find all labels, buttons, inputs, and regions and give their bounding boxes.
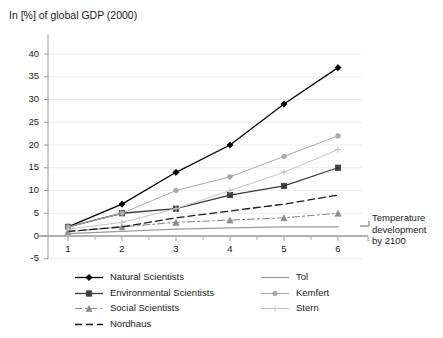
x-axis-caption-line-3: by 2100 xyxy=(372,235,426,247)
y-tick-label: 15 xyxy=(13,162,39,172)
data-point xyxy=(281,169,287,175)
legend-item[interactable]: Social Scientists xyxy=(74,300,254,316)
x-axis-caption-line-1: Temperature xyxy=(372,212,426,224)
y-tick-label: 5 xyxy=(13,208,39,218)
legend-item[interactable]: Kemfert xyxy=(260,285,400,301)
data-point xyxy=(173,169,179,175)
y-tick-label: 30 xyxy=(13,94,39,104)
legend-item-label: Social Scientists xyxy=(110,302,179,313)
legend-marker xyxy=(86,291,91,296)
legend-item-label: Nordhaus xyxy=(110,318,151,329)
caption-bracket-mark xyxy=(360,221,369,226)
chart-legend: Natural ScientistsEnvironmental Scientis… xyxy=(74,269,404,331)
legend-item[interactable]: Natural Scientists xyxy=(74,269,254,285)
legend-item-label: Tol xyxy=(296,271,308,282)
y-tick-label: 40 xyxy=(13,49,39,59)
legend-swatch xyxy=(74,317,104,330)
y-tick-label: 25 xyxy=(13,117,39,127)
legend-item[interactable]: Tol xyxy=(260,269,400,285)
data-point xyxy=(281,183,286,188)
legend-swatch xyxy=(74,286,104,299)
series-environmental-scientists xyxy=(65,165,340,230)
legend-swatch xyxy=(74,301,104,314)
x-axis-caption-line-2: development xyxy=(372,224,426,236)
series-natural-scientists xyxy=(65,65,341,230)
legend-marker xyxy=(272,306,278,312)
chart-container: In [%] of global GDP (2000) 403530252015… xyxy=(0,0,443,338)
x-tick-label: 5 xyxy=(274,244,294,254)
data-point xyxy=(120,211,125,216)
legend-item-label: Stern xyxy=(296,302,319,313)
legend-swatch xyxy=(260,270,290,283)
legend-marker xyxy=(273,291,278,296)
legend-item[interactable]: Environmental Scientists xyxy=(74,285,254,301)
y-tick-label: 35 xyxy=(13,71,39,81)
data-point xyxy=(119,219,125,225)
y-tick-label: -5 xyxy=(13,253,39,263)
data-point xyxy=(282,154,287,159)
data-point xyxy=(335,165,340,170)
series-line xyxy=(68,68,338,227)
legend-item-label: Kemfert xyxy=(296,287,329,298)
y-axis-ticks xyxy=(44,54,48,259)
legend-item[interactable]: Stern xyxy=(260,300,400,316)
x-tick-label: 3 xyxy=(166,244,186,254)
series-line xyxy=(68,168,338,227)
legend-swatch-icon xyxy=(260,287,290,300)
legend-marker xyxy=(86,275,92,281)
legend-swatch-icon xyxy=(74,318,104,331)
legend-swatch-icon xyxy=(260,271,290,284)
y-tick-label: 10 xyxy=(13,185,39,195)
caption-bracket xyxy=(360,221,369,226)
legend-item-label: Environmental Scientists xyxy=(110,287,214,298)
data-point xyxy=(174,188,179,193)
data-series-layer xyxy=(65,65,341,235)
legend-column-left: Natural ScientistsEnvironmental Scientis… xyxy=(74,269,254,331)
x-axis-caption: Temperature development by 2100 xyxy=(372,212,426,247)
data-point xyxy=(335,147,341,153)
legend-swatch-icon xyxy=(260,302,290,315)
series-stern xyxy=(65,147,341,233)
legend-item-label: Natural Scientists xyxy=(110,271,184,282)
y-tick-label: 0 xyxy=(13,231,39,241)
legend-swatch-icon xyxy=(74,271,104,284)
legend-swatch-icon xyxy=(74,302,104,315)
x-tick-label: 2 xyxy=(112,244,132,254)
x-tick-label: 1 xyxy=(58,244,78,254)
y-tick-label: 20 xyxy=(13,140,39,150)
legend-swatch xyxy=(260,301,290,314)
x-axis-ticks xyxy=(68,236,368,241)
legend-column-right: TolKemfertStern xyxy=(260,269,400,316)
legend-item[interactable]: Nordhaus xyxy=(74,316,254,332)
data-point xyxy=(336,134,341,139)
x-tick-label: 4 xyxy=(220,244,240,254)
legend-swatch-icon xyxy=(74,287,104,300)
axis-lines xyxy=(39,35,368,259)
legend-swatch xyxy=(74,270,104,283)
legend-swatch xyxy=(260,286,290,299)
x-tick-label: 6 xyxy=(328,244,348,254)
data-point xyxy=(119,201,125,207)
data-point xyxy=(228,174,233,179)
